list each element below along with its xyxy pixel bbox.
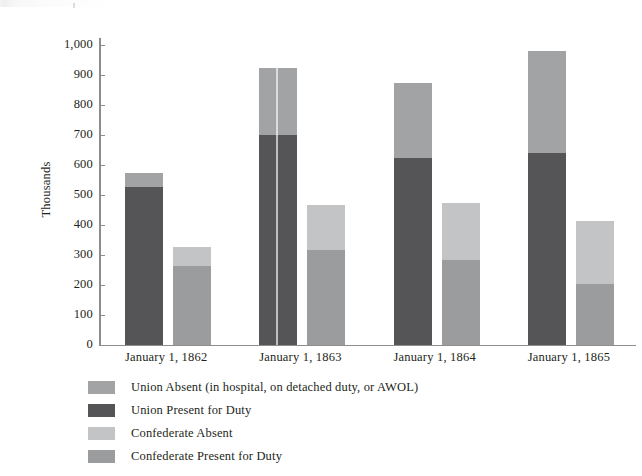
y-tick-label-text: 500 bbox=[39, 187, 93, 202]
chart-container: Thousands 01002003004005006007008009001,… bbox=[0, 0, 642, 476]
legend-swatch bbox=[88, 404, 115, 417]
y-tick-label-text: 800 bbox=[39, 97, 93, 112]
bar-union[interactable] bbox=[259, 68, 297, 345]
x-tick-label: January 1, 1862 bbox=[99, 350, 233, 365]
x-tick-label: January 1, 1864 bbox=[368, 350, 502, 365]
legend-swatch bbox=[88, 381, 115, 394]
y-tick-label-text: 600 bbox=[39, 157, 93, 172]
bar-segment-confederate-absent[interactable] bbox=[442, 203, 480, 259]
legend-item[interactable]: Confederate Absent bbox=[88, 422, 418, 445]
bar-union[interactable] bbox=[394, 83, 432, 346]
y-tick-label-text: 300 bbox=[39, 247, 93, 262]
bar-segment-confederate-present[interactable] bbox=[307, 250, 345, 345]
page-edge-artifact bbox=[0, 0, 642, 7]
y-tick-label-text: 0 bbox=[39, 337, 93, 352]
bar-segment-union-present[interactable] bbox=[528, 153, 566, 345]
bar-confederate[interactable] bbox=[307, 205, 345, 345]
legend-item[interactable]: Confederate Present for Duty bbox=[88, 445, 418, 468]
bar-segment-union-present[interactable] bbox=[125, 187, 163, 345]
bar-segment-union-present[interactable] bbox=[394, 158, 432, 345]
y-tick-label: 600 bbox=[36, 157, 93, 171]
bar-segment-union-present[interactable] bbox=[259, 135, 297, 345]
y-tick-label: 1,000 bbox=[36, 37, 93, 51]
y-tick-label-text: 100 bbox=[39, 307, 93, 322]
legend-label: Union Present for Duty bbox=[131, 403, 251, 418]
bar-group bbox=[368, 45, 502, 345]
page-edge-mark bbox=[73, 3, 75, 8]
legend-swatch bbox=[88, 450, 115, 463]
bar-segment-confederate-absent[interactable] bbox=[173, 247, 211, 267]
y-tick-label: 700 bbox=[36, 127, 93, 141]
legend-label: Confederate Absent bbox=[131, 426, 233, 441]
bar-confederate[interactable] bbox=[173, 247, 211, 345]
y-tick-label: 500 bbox=[36, 187, 93, 201]
y-tick-label-text: 400 bbox=[39, 217, 93, 232]
bar-segment-confederate-absent[interactable] bbox=[576, 221, 614, 284]
y-tick-label: 0 bbox=[36, 337, 93, 351]
y-tick-label: 300 bbox=[36, 247, 93, 261]
x-tick-label: January 1, 1865 bbox=[502, 350, 636, 365]
bar-group bbox=[502, 45, 636, 345]
bar-union[interactable] bbox=[125, 173, 163, 346]
y-tick-label-text: 700 bbox=[39, 127, 93, 142]
bar-group bbox=[99, 45, 233, 345]
y-tick-label-text: 900 bbox=[39, 67, 93, 82]
bar-segment-confederate-present[interactable] bbox=[576, 284, 614, 346]
plot-area bbox=[99, 45, 636, 345]
y-tick-label-text: 200 bbox=[39, 277, 93, 292]
bar-segment-confederate-present[interactable] bbox=[442, 260, 480, 346]
y-tick-label: 100 bbox=[36, 307, 93, 321]
legend-label: Confederate Present for Duty bbox=[131, 449, 282, 464]
y-tick-label: 800 bbox=[36, 97, 93, 111]
bar-segment-union-absent[interactable] bbox=[394, 83, 432, 159]
y-tick-label: 200 bbox=[36, 277, 93, 291]
bar-confederate[interactable] bbox=[442, 203, 480, 345]
legend-label: Union Absent (in hospital, on detached d… bbox=[131, 380, 418, 395]
legend-item[interactable]: Union Absent (in hospital, on detached d… bbox=[88, 376, 418, 399]
bar-group bbox=[233, 45, 367, 345]
legend-item[interactable]: Union Present for Duty bbox=[88, 399, 418, 422]
bar-segment-confederate-present[interactable] bbox=[173, 266, 211, 345]
x-tick-label: January 1, 1863 bbox=[233, 350, 367, 365]
y-tick-label: 900 bbox=[36, 67, 93, 81]
y-tick-label: 400 bbox=[36, 217, 93, 231]
bar-confederate[interactable] bbox=[576, 221, 614, 346]
bar-segment-confederate-absent[interactable] bbox=[307, 205, 345, 250]
legend-swatch bbox=[88, 427, 115, 440]
bar-segment-union-absent[interactable] bbox=[125, 173, 163, 187]
y-tick-label-text: 1,000 bbox=[39, 37, 93, 52]
bar-segment-union-absent[interactable] bbox=[528, 51, 566, 153]
bar-union[interactable] bbox=[528, 51, 566, 345]
chart-legend: Union Absent (in hospital, on detached d… bbox=[88, 376, 418, 468]
bar-segment-union-absent[interactable] bbox=[259, 68, 297, 135]
